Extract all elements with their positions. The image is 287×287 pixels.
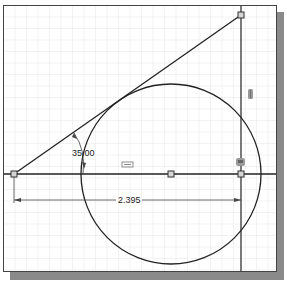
- angle-dimension-label[interactable]: 35.00: [72, 148, 95, 158]
- linear-dimension-label[interactable]: 2.395: [118, 195, 141, 205]
- coincident-constraint-icon[interactable]: [236, 158, 245, 166]
- grid: [4, 6, 276, 271]
- left-endpoint-point[interactable]: [11, 171, 17, 177]
- right-intersection-point[interactable]: [238, 171, 244, 177]
- circle-center-point[interactable]: [168, 171, 174, 177]
- vertical-constraint-icon[interactable]: [248, 89, 253, 99]
- sketch-drawing[interactable]: 2.395 35.00: [0, 0, 287, 287]
- top-endpoint-point[interactable]: [238, 12, 244, 18]
